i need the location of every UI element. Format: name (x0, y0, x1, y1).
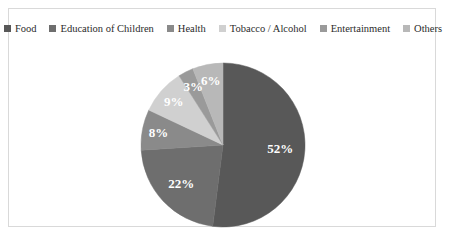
pie-slice-label: 6% (201, 73, 221, 88)
pie-plot-area: 52%22%8%9%3%6% (9, 9, 437, 228)
pie-slice-label: 52% (267, 141, 293, 156)
pie-slice-label: 22% (168, 176, 194, 191)
chart-frame: FoodEducation of ChildrenHealthTobacco /… (8, 8, 436, 227)
pie-slice-label: 9% (164, 94, 184, 109)
pie-slice-label: 8% (149, 125, 169, 140)
pie-chart: 52%22%8%9%3%6% (140, 62, 306, 228)
